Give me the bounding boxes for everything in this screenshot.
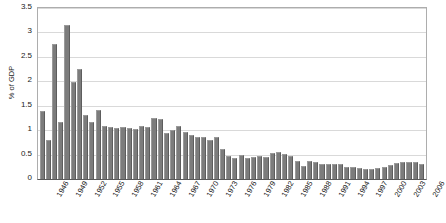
- bar: [46, 140, 51, 179]
- bar: [375, 168, 380, 179]
- plot-area: [37, 7, 427, 180]
- bar: [257, 156, 262, 179]
- x-tick-label: 1949: [74, 180, 89, 198]
- x-tick-label: 1952: [93, 180, 108, 198]
- bar: [226, 156, 231, 179]
- x-tick-label: 1988: [318, 180, 333, 198]
- x-tick-label: 1997: [375, 180, 390, 198]
- bar: [89, 122, 94, 179]
- bar: [127, 128, 132, 179]
- bar: [369, 169, 374, 179]
- x-tick-label: 2006: [431, 180, 446, 198]
- bar: [139, 126, 144, 179]
- bar: [295, 161, 300, 179]
- y-tick-label: 3.5: [21, 3, 32, 11]
- y-tick-label: 1.5: [21, 101, 32, 109]
- bar: [363, 169, 368, 179]
- bar: [40, 111, 45, 179]
- x-tick-label: 1982: [281, 180, 296, 198]
- bar: [301, 166, 306, 179]
- bar: [214, 137, 219, 179]
- bar: [170, 130, 175, 179]
- x-tick-label: 1985: [300, 180, 315, 198]
- x-axis-tick-labels: 1946194919521955195819611964196719701973…: [37, 180, 425, 223]
- bar: [400, 162, 405, 179]
- bar: [313, 162, 318, 179]
- bar: [388, 165, 393, 179]
- bar: [220, 149, 225, 179]
- bar: [307, 161, 312, 179]
- bar: [357, 168, 362, 179]
- bar: [288, 156, 293, 179]
- bar: [164, 133, 169, 179]
- bar: [133, 129, 138, 179]
- x-tick-label: 1967: [187, 180, 202, 198]
- bar: [270, 153, 275, 179]
- bar: [419, 164, 424, 179]
- x-tick-label: 1976: [243, 180, 258, 198]
- bar: [382, 167, 387, 179]
- bar: [77, 69, 82, 179]
- bar: [183, 132, 188, 179]
- bar: [52, 44, 57, 179]
- bar: [344, 167, 349, 179]
- x-tick-label: 1970: [206, 180, 221, 198]
- y-tick-label: 1: [28, 125, 32, 133]
- bar-series: [38, 8, 426, 179]
- x-tick-label: 1946: [55, 180, 70, 198]
- bar: [332, 164, 337, 179]
- x-tick-label: 1973: [224, 180, 239, 198]
- bar: [102, 126, 107, 179]
- x-tick-label: 2000: [393, 180, 408, 198]
- x-tick-label: 1964: [168, 180, 183, 198]
- bar: [114, 128, 119, 179]
- bar: [64, 25, 69, 179]
- y-tick-label: 0.5: [21, 150, 32, 158]
- bar: [151, 118, 156, 179]
- bar: [83, 115, 88, 179]
- bar: [108, 127, 113, 179]
- bar: [71, 82, 76, 179]
- y-axis-tick-labels: 00.511.522.533.5: [0, 0, 36, 223]
- bar: [350, 167, 355, 179]
- bar: [195, 137, 200, 180]
- bar: [276, 152, 281, 179]
- bar: [207, 140, 212, 179]
- y-tick-label: 2: [28, 76, 32, 84]
- bar: [263, 157, 268, 179]
- bar: [201, 137, 206, 179]
- x-tick-label: 2003: [412, 180, 427, 198]
- bar: [239, 155, 244, 179]
- bar: [96, 110, 101, 179]
- bar: [120, 127, 125, 179]
- y-tick-label: 2.5: [21, 52, 32, 60]
- y-tick-label: 0: [28, 174, 32, 182]
- x-tick-label: 1991: [337, 180, 352, 198]
- bar: [145, 127, 150, 179]
- bar: [176, 126, 181, 179]
- bar: [282, 154, 287, 179]
- bar: [338, 164, 343, 179]
- bar: [158, 119, 163, 179]
- x-tick-label: 1961: [149, 180, 164, 198]
- x-tick-label: 1994: [356, 180, 371, 198]
- bar: [394, 163, 399, 179]
- y-tick-label: 3: [28, 27, 32, 35]
- bar: [189, 135, 194, 179]
- bar: [245, 158, 250, 179]
- bar: [319, 164, 324, 179]
- bar: [406, 162, 411, 179]
- bar: [251, 157, 256, 179]
- x-tick-label: 1955: [112, 180, 127, 198]
- bar: [326, 164, 331, 179]
- bar: [413, 162, 418, 179]
- bar: [58, 122, 63, 179]
- x-tick-label: 1979: [262, 180, 277, 198]
- bar: [232, 158, 237, 179]
- x-tick-label: 1958: [131, 180, 146, 198]
